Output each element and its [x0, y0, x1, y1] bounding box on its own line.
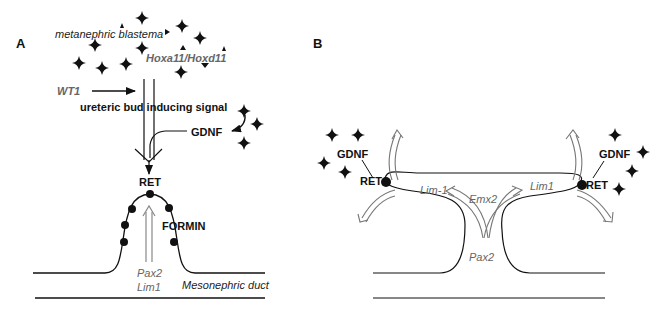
- gdnf-arrow: [232, 115, 245, 131]
- wt1-label: WT1: [57, 85, 80, 97]
- gdnf-ret-link-right: [593, 161, 604, 178]
- formin-label: FORMIN: [162, 220, 205, 232]
- branch-arrows: [358, 130, 613, 238]
- gdnf-label-a: GDNF: [191, 126, 222, 138]
- metanephric-blastema-label: metanephric blastema: [55, 28, 163, 40]
- ret-label-b-left: RET: [360, 175, 382, 187]
- signal-label: ureteric bud inducing signal: [80, 101, 227, 113]
- lim1-label-b-left: Lim-1: [420, 184, 448, 196]
- diagram-canvas: A metanephric blastema Hoxa11/Hoxd11 WT1…: [0, 0, 667, 309]
- star-icons-right: [608, 128, 650, 196]
- duct-label: Mesonephric duct: [182, 279, 270, 291]
- panel-a-label: A: [16, 36, 26, 51]
- lim1-label-a: Lim1: [137, 281, 161, 293]
- formin-dots: [120, 190, 178, 246]
- pax2-label-b: Pax2: [469, 251, 494, 263]
- panel-b-label: B: [313, 36, 322, 51]
- gdnf-curve: [150, 131, 187, 158]
- lim1-label-b-right: Lim1: [530, 180, 554, 192]
- hox-label: Hoxa11/Hoxd11: [146, 52, 226, 64]
- ret-label-b-right: RET: [586, 179, 608, 191]
- ret-label-a: RET: [139, 176, 161, 188]
- ret-dot-left: [381, 177, 391, 187]
- pax2-label-a: Pax2: [137, 267, 162, 279]
- emx2-label: Emx2: [469, 193, 497, 205]
- ret-dot-right: [577, 180, 587, 190]
- gdnf-label-b-left: GDNF: [337, 148, 368, 160]
- pax2-up-arrow: [143, 206, 155, 262]
- gdnf-label-b-right: GDNF: [599, 148, 630, 160]
